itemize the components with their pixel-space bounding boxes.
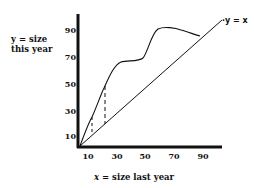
growth-curve: [80, 27, 200, 146]
x-axis-label-text: = size last year: [99, 172, 174, 182]
chart-plot: [0, 0, 254, 188]
x-axis-label: x = size last year: [94, 172, 174, 182]
identity-line-label: ·y = x: [222, 16, 248, 25]
